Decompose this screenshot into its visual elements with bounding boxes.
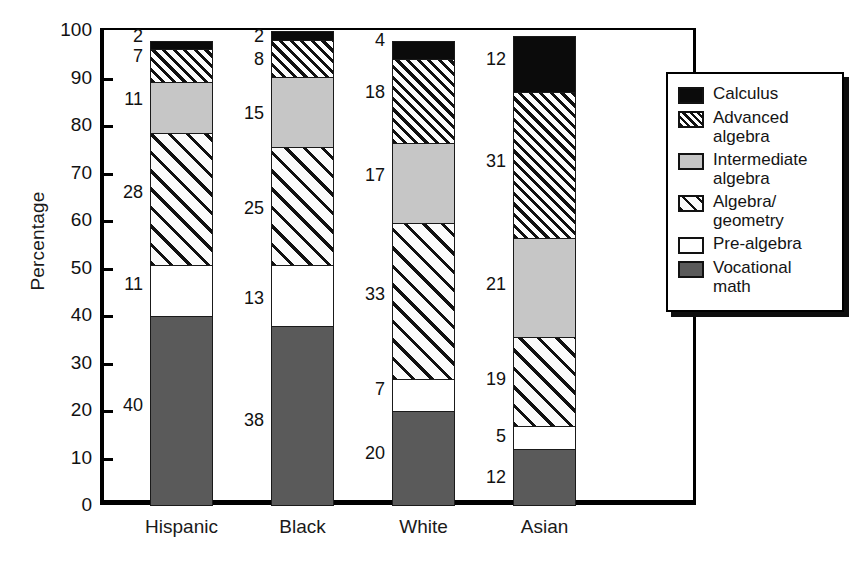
legend-label-intermediate: Intermediatealgebra [713, 150, 808, 188]
bar-segment-vocational[interactable] [271, 326, 334, 507]
data-label-black-prealgebra: 13 [220, 289, 264, 307]
data-label-white-calculus: 4 [341, 31, 385, 49]
bar-segment-intermediate[interactable] [513, 238, 576, 338]
legend-swatch-intermediate-icon [678, 153, 704, 170]
legend-label-vocational: Vocationalmath [713, 258, 791, 296]
bar-segment-advanced[interactable] [513, 92, 576, 239]
legend-swatch-prealgebra-icon [678, 237, 704, 254]
data-label-black-algebrageom: 25 [220, 199, 264, 217]
bar-segment-vocational[interactable] [392, 411, 455, 506]
data-label-white-intermediate: 17 [341, 166, 385, 184]
bar-hispanic[interactable] [150, 30, 213, 505]
legend-item-intermediate[interactable]: Intermediatealgebra [678, 150, 834, 188]
bar-segment-advanced[interactable] [150, 49, 213, 82]
data-label-white-prealgebra: 7 [341, 380, 385, 398]
data-label-hispanic-advanced: 7 [99, 47, 143, 65]
data-label-asian-advanced: 31 [462, 152, 506, 170]
bar-segment-intermediate[interactable] [271, 77, 334, 148]
legend-item-vocational[interactable]: Vocationalmath [678, 258, 834, 296]
bar-segment-vocational[interactable] [150, 316, 213, 506]
bar-segment-prealgebra[interactable] [271, 265, 334, 327]
data-label-asian-algebrageom: 19 [462, 370, 506, 388]
bar-segment-algebrageom[interactable] [513, 337, 576, 427]
bar-segment-advanced[interactable] [392, 59, 455, 145]
data-label-asian-prealgebra: 5 [462, 427, 506, 445]
data-label-black-intermediate: 15 [220, 104, 264, 122]
bar-segment-advanced[interactable] [271, 40, 334, 78]
legend-item-prealgebra[interactable]: Pre-algebra [678, 234, 834, 254]
legend-swatch-advanced-icon [678, 111, 704, 128]
legend-item-advanced[interactable]: Advancedalgebra [678, 108, 834, 146]
bar-segment-calculus[interactable] [513, 36, 576, 93]
x-category-hispanic: Hispanic [112, 516, 252, 538]
bar-segment-prealgebra[interactable] [150, 265, 213, 317]
x-category-white: White [354, 516, 494, 538]
data-label-asian-vocational: 12 [462, 468, 506, 486]
data-label-black-calculus: 2 [220, 27, 264, 45]
data-label-white-algebrageom: 33 [341, 285, 385, 303]
bar-black[interactable] [271, 30, 334, 505]
data-label-white-advanced: 18 [341, 83, 385, 101]
bar-white[interactable] [392, 30, 455, 505]
data-label-hispanic-vocational: 40 [99, 396, 143, 414]
bar-segment-vocational[interactable] [513, 449, 576, 506]
x-category-asian: Asian [475, 516, 615, 538]
data-label-asian-calculus: 12 [462, 50, 506, 68]
bar-segment-calculus[interactable] [150, 41, 213, 51]
bar-segment-calculus[interactable] [271, 31, 334, 41]
legend-swatch-algebrageom-icon [678, 195, 704, 212]
legend-label-calculus: Calculus [713, 84, 778, 103]
legend-item-calculus[interactable]: Calculus [678, 84, 834, 104]
legend-label-algebrageom: Algebra/geometry [713, 192, 784, 230]
bar-segment-prealgebra[interactable] [392, 379, 455, 412]
bar-segment-algebrageom[interactable] [271, 147, 334, 266]
data-label-hispanic-algebrageom: 28 [99, 183, 143, 201]
bar-segment-algebrageom[interactable] [392, 223, 455, 380]
data-label-black-advanced: 8 [220, 50, 264, 68]
data-label-asian-intermediate: 21 [462, 275, 506, 293]
stacked-bar-chart: Percentage 1009080706050403020100 271128… [0, 0, 854, 563]
bar-segment-algebrageom[interactable] [150, 133, 213, 266]
bar-segment-intermediate[interactable] [392, 143, 455, 224]
bar-segment-intermediate[interactable] [150, 82, 213, 134]
legend-label-prealgebra: Pre-algebra [713, 234, 802, 253]
data-label-white-vocational: 20 [341, 444, 385, 462]
legend-item-algebrageom[interactable]: Algebra/geometry [678, 192, 834, 230]
legend-swatch-vocational-icon [678, 261, 704, 278]
legend-swatch-calculus-icon [678, 87, 704, 104]
data-label-black-vocational: 38 [220, 411, 264, 429]
bar-segment-prealgebra[interactable] [513, 426, 576, 450]
bar-asian[interactable] [513, 30, 576, 505]
bar-segment-calculus[interactable] [392, 41, 455, 60]
data-label-hispanic-intermediate: 11 [99, 90, 143, 108]
legend-label-advanced: Advancedalgebra [713, 108, 789, 146]
legend[interactable]: CalculusAdvancedalgebraIntermediatealgeb… [666, 72, 844, 312]
data-label-hispanic-prealgebra: 11 [99, 275, 143, 293]
data-label-hispanic-calculus: 2 [99, 27, 143, 45]
x-category-black: Black [233, 516, 373, 538]
